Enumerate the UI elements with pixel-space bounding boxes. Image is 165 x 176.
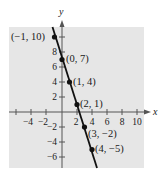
y-axis-label: y — [58, 6, 64, 17]
data-point — [74, 102, 79, 107]
x-tick-label: 4 — [90, 117, 95, 127]
point-label: (4, −5) — [95, 143, 124, 155]
y-tick-label: −4 — [47, 137, 57, 147]
y-axis-arrow-icon — [60, 20, 65, 27]
data-point — [82, 124, 87, 129]
x-tick-label: 6 — [105, 117, 110, 127]
data-point — [52, 34, 57, 39]
point-label: (0, 7) — [66, 53, 89, 65]
y-tick-label: 8 — [52, 47, 57, 57]
x-tick-label: 2 — [74, 117, 79, 127]
data-point — [89, 147, 94, 152]
x-axis-label: x — [152, 106, 158, 117]
line-chart: x −4 −2 2 4 6 8 10 — [0, 0, 165, 176]
data-point — [67, 79, 72, 84]
point-label: (1, 4) — [73, 76, 96, 88]
y-tick-label: 2 — [52, 92, 57, 102]
y-tick-label: 6 — [52, 62, 57, 72]
data-point — [59, 57, 64, 62]
point-label: (−1, 10) — [11, 31, 45, 43]
x-tick-label: 8 — [120, 117, 125, 127]
point-label: (3, −2) — [88, 128, 117, 140]
y-tick-label: −6 — [47, 152, 57, 162]
x-tick-label: 10 — [132, 117, 142, 127]
plot-background — [9, 27, 144, 168]
x-tick-label: −4 — [23, 117, 33, 127]
x-axis-arrow-icon — [144, 110, 151, 115]
point-label: (2, 1) — [80, 98, 103, 110]
y-tick-label: 4 — [52, 77, 57, 87]
y-tick-label: −2 — [47, 122, 57, 132]
